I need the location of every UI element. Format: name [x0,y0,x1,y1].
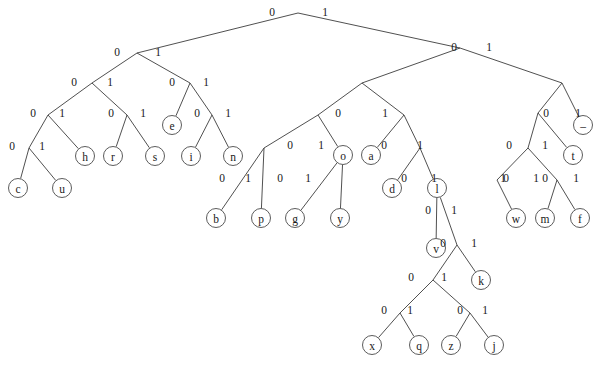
edge-bit-label: 0 [277,172,283,184]
edge-bit-label: 0 [408,271,414,283]
tree-edge [433,280,470,313]
edge-bit-label: 1 [39,140,45,152]
tree-edge [137,13,298,53]
leaf-symbol-label: u [59,183,65,195]
edge-bit-label: 0 [542,172,548,184]
edge-bit-label: 1 [245,172,251,184]
edge-bit-label: 1 [500,172,506,184]
leaf-symbol-label: o [340,150,346,162]
edge-bit-label: 0 [108,107,114,119]
tree-edge [298,13,460,48]
edge-labels-layer: 0101010101010101010101010101010101011010… [9,6,581,316]
edge-bit-label: 1 [382,107,388,119]
tree-edge [400,280,433,313]
leaf-symbol-label: f [578,213,582,225]
edge-bit-label: 0 [381,139,387,151]
tree-edge [301,163,337,210]
tree-edge [48,83,92,115]
tree-edge [48,115,78,149]
leaf-symbol-label: g [292,213,298,226]
edge-bit-label: 1 [417,139,423,151]
tree-edge [457,245,475,272]
leaf-symbol-label: b [213,213,219,225]
edge-bit-label: 1 [407,304,413,316]
edge-bit-label: 0 [114,46,120,58]
huffman-tree-figure: e–hrsinoatcudlwmfbpgyvkxqzj 010101010101… [0,0,604,368]
tree-edge [436,198,437,238]
leaf-symbol-label: j [491,340,495,353]
leaf-symbol-label: n [230,151,236,163]
edge-bit-label: 1 [542,139,548,151]
edge-bit-label: 1 [107,76,113,88]
edge-bit-label: 0 [401,172,407,184]
tree-edge [176,83,190,116]
edge-bit-label: 1 [322,6,328,18]
edge-bit-label: 1 [441,271,447,283]
edge-bit-label: 1 [225,107,231,119]
tree-edge [261,148,264,208]
edges-layer [21,13,579,337]
edge-bit-label: 1 [486,41,492,53]
tree-edge [196,115,212,147]
edge-bit-label: 1 [471,237,477,249]
edge-bit-label: 0 [219,172,225,184]
tree-edge [212,115,228,147]
edge-bit-label: 1 [155,46,161,58]
leaf-symbol-label: c [15,183,20,195]
tree-edge [456,313,470,336]
edge-bit-label: 0 [30,107,36,119]
leaf-symbol-label: q [416,340,422,353]
leaf-symbol-label: x [369,340,375,352]
leaf-symbol-label: v [433,243,439,255]
tree-edge [557,180,575,209]
edge-bit-label: 0 [9,140,15,152]
leaf-symbol-label: a [368,150,373,162]
edge-bit-label: 1 [59,107,65,119]
leaf-symbol-label: l [435,183,438,195]
edge-bit-label: 1 [575,107,581,119]
leaf-symbol-label: s [153,151,158,163]
tree-edge [460,48,562,83]
leaf-symbol-label: e [169,120,174,132]
tree-canvas: e–hrsinoatcudlwmfbpgyvkxqzj 010101010101… [0,0,604,368]
leaf-symbol-label: m [541,213,550,225]
edge-bit-label: 1 [203,76,209,88]
edge-bit-label: 0 [451,41,457,53]
leaf-symbol-label: i [189,151,192,163]
tree-edge [116,115,127,147]
leaf-symbol-label: z [448,340,453,352]
tree-edge [497,180,512,209]
edge-bit-label: 1 [451,204,457,216]
edge-bit-label: 0 [287,139,293,151]
tree-edge [538,83,562,113]
tree-edge [29,148,56,180]
nodes-layer: e–hrsinoatcudlwmfbpgyvkxqzj [9,116,593,355]
edge-bit-label: 1 [431,172,437,184]
tree-edge [137,53,190,83]
tree-edge [548,180,557,208]
edge-bit-label: 1 [305,172,311,184]
edge-bit-label: 1 [482,304,488,316]
leaf-symbol-label: w [512,213,521,225]
leaf-symbol-label: p [258,213,264,226]
edge-bit-label: 0 [169,76,175,88]
tree-edge [21,148,29,178]
edge-bit-label: 1 [318,139,324,151]
tree-edge [362,48,460,83]
edge-bit-label: 0 [71,76,77,88]
edge-bit-label: 0 [335,107,341,119]
edge-bit-label: 1 [533,172,539,184]
edge-bit-label: 0 [543,107,549,119]
tree-edge [127,115,149,148]
leaf-symbol-label: – [579,120,586,132]
edge-bit-label: 0 [194,107,200,119]
leaf-symbol-label: y [337,213,343,226]
tree-edge [470,313,488,337]
edge-bit-label: 0 [440,237,446,249]
tree-edge [528,113,538,148]
tree-edge [400,313,414,336]
edge-bit-label: 0 [381,304,387,316]
leaf-symbol-label: r [111,151,115,163]
edge-bit-label: 1 [140,107,146,119]
leaf-symbol-label: h [82,151,88,163]
